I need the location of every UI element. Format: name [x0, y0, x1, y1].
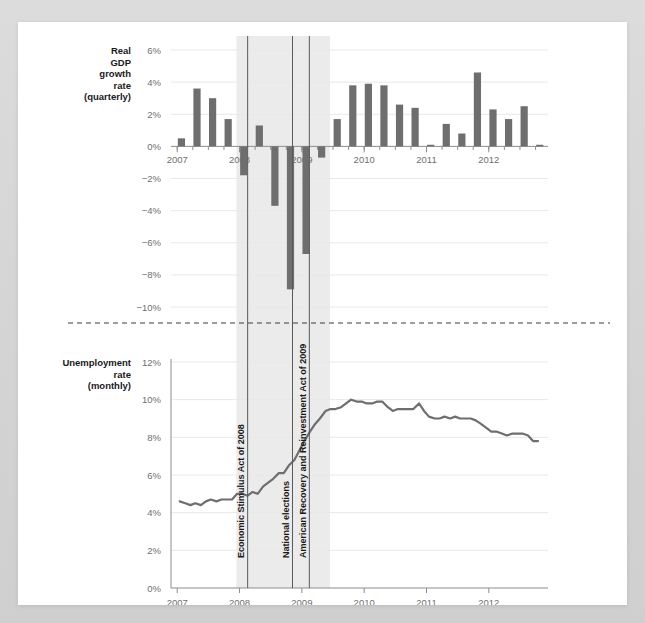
- gdp-ytick-label: 2%: [147, 109, 161, 120]
- event-label: National elections: [281, 481, 291, 558]
- gdp-xtick-label: 2011: [416, 154, 436, 165]
- gdp-bar: [505, 119, 512, 146]
- gdp-xtick-label: 2010: [354, 154, 375, 165]
- unemployment-ytick-label: 2%: [147, 545, 161, 556]
- gdp-bar: [256, 125, 263, 146]
- unemployment-ytick-label: 8%: [147, 432, 161, 443]
- gdp-bar: [458, 134, 465, 147]
- gdp-bar: [489, 109, 496, 146]
- gdp-ytick-label: −8%: [142, 269, 162, 280]
- gdp-bar: [334, 119, 341, 146]
- gdp-ytick-label: −6%: [142, 237, 162, 248]
- unemployment-xtick-label: 2007: [167, 597, 188, 605]
- unemployment-xtick-label: 2011: [416, 597, 436, 605]
- gdp-panel-title: (quarterly): [84, 91, 131, 102]
- event-label: Economic Stimulus Act of 2008: [236, 424, 246, 558]
- gdp-bar: [536, 145, 543, 147]
- gdp-bar: [349, 85, 356, 146]
- gdp-ytick-label: 4%: [147, 77, 161, 88]
- gdp-ytick-label: 0%: [147, 141, 161, 152]
- page-background: 6%4%2%0%−2%−4%−6%−8%−10%2007200820092010…: [0, 0, 645, 623]
- gdp-panel-title: Real: [111, 45, 131, 56]
- unemployment-xtick-label: 2010: [354, 597, 375, 605]
- gdp-bar: [474, 72, 481, 146]
- gdp-bar: [178, 138, 185, 146]
- unemployment-line: [180, 400, 538, 505]
- unemployment-panel-title: (monthly): [88, 380, 131, 391]
- gdp-ytick-label: 6%: [147, 45, 161, 56]
- unemployment-ytick-label: 0%: [147, 583, 161, 594]
- gdp-panel-title: GDP: [110, 57, 131, 68]
- gdp-bar: [302, 146, 309, 254]
- gdp-bar: [318, 146, 325, 157]
- gdp-bar: [521, 106, 528, 146]
- unemployment-xtick-label: 2008: [229, 597, 250, 605]
- unemployment-ytick-label: 4%: [147, 507, 161, 518]
- gdp-xtick-label: 2012: [478, 154, 499, 165]
- unemployment-ytick-label: 6%: [147, 470, 161, 481]
- gdp-bar: [225, 119, 232, 146]
- gdp-panel-title: rate: [114, 80, 131, 91]
- gdp-bar: [271, 146, 278, 205]
- gdp-xtick-label: 2007: [167, 154, 188, 165]
- gdp-ytick-label: −2%: [142, 173, 162, 184]
- gdp-bar: [412, 108, 419, 147]
- unemployment-ytick-label: 12%: [142, 357, 162, 368]
- gdp-bar: [209, 98, 216, 146]
- figure-canvas: 6%4%2%0%−2%−4%−6%−8%−10%2007200820092010…: [18, 22, 627, 605]
- gdp-ytick-label: −10%: [136, 302, 161, 313]
- gdp-bar: [396, 105, 403, 147]
- gdp-bar: [427, 145, 434, 147]
- gdp-bar: [365, 84, 372, 147]
- gdp-bar: [240, 146, 247, 175]
- gdp-bar: [443, 124, 450, 146]
- gdp-ytick-label: −4%: [142, 205, 162, 216]
- unemployment-ytick-label: 10%: [142, 394, 162, 405]
- unemployment-xtick-label: 2012: [478, 597, 499, 605]
- gdp-bar: [193, 89, 200, 147]
- gdp-bar: [380, 85, 387, 146]
- unemployment-xtick-label: 2009: [291, 597, 312, 605]
- event-label: American Recovery and Reinvestment Act o…: [298, 344, 308, 558]
- unemployment-panel-title: rate: [114, 369, 131, 380]
- gdp-panel-title: growth: [99, 68, 131, 79]
- dual-panel-economic-chart: 6%4%2%0%−2%−4%−6%−8%−10%2007200820092010…: [18, 22, 627, 605]
- unemployment-panel-title: Unemployment: [62, 357, 131, 368]
